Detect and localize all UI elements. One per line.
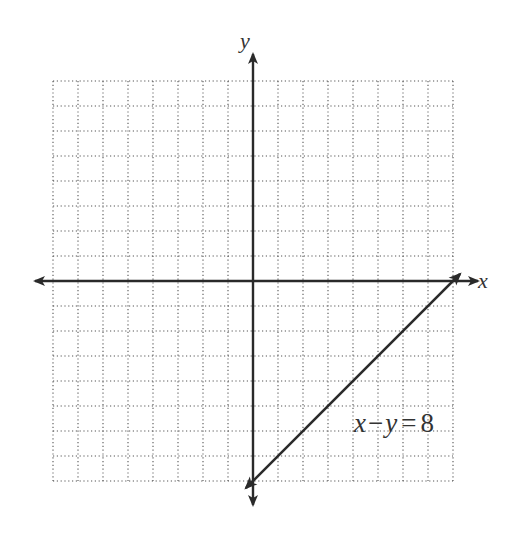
equation-x: x — [353, 408, 366, 438]
coordinate-plane: x y x−y=8 — [0, 0, 516, 533]
x-axis-label: x — [477, 268, 488, 293]
equation-minus: − — [368, 408, 383, 438]
equation-equals: = — [401, 408, 416, 438]
equation-constant: 8 — [420, 408, 434, 438]
equation-y: y — [382, 408, 397, 438]
y-axis-label: y — [238, 28, 250, 53]
equation-label: x−y=8 — [353, 408, 434, 438]
